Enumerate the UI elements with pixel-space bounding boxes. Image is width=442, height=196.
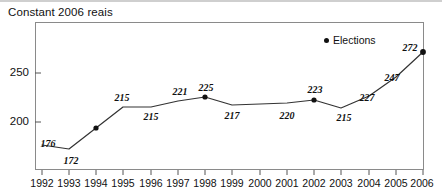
x-tick-label-1993: 1993	[57, 177, 80, 189]
y-tick-label-200: 200	[3, 115, 29, 127]
x-tick-label-1998: 1998	[193, 177, 216, 189]
data-label-1995: 215	[115, 92, 130, 103]
x-tick-label-2004: 2004	[357, 177, 380, 189]
data-label-1996: 215	[144, 111, 159, 122]
data-label-2002: 223	[308, 84, 323, 95]
x-tick-label-2003: 2003	[329, 177, 352, 189]
x-tick-label-2001: 2001	[275, 177, 298, 189]
chart-canvas	[0, 0, 442, 196]
data-label-2006: 272	[403, 42, 418, 53]
x-tick-label-2005: 2005	[384, 177, 407, 189]
x-tick-label-2006: 2006	[410, 177, 433, 189]
dot-marker-icon	[324, 38, 329, 43]
x-tick-label-1995: 1995	[111, 177, 134, 189]
data-label-2001: 220	[280, 110, 295, 121]
x-tick-label-1994: 1994	[84, 177, 107, 189]
chart-figure: Constant 2006 reais	[0, 0, 442, 196]
data-label-1992: 176	[41, 138, 56, 149]
x-tick-label-2002: 2002	[302, 177, 325, 189]
data-label-1998: 225	[199, 82, 214, 93]
x-tick-label-2000: 2000	[248, 177, 271, 189]
x-tick-label-1992: 1992	[30, 177, 53, 189]
legend-elections: Elections	[324, 34, 376, 46]
legend-label: Elections	[333, 34, 376, 46]
x-tick-label-1996: 1996	[139, 177, 162, 189]
data-label-2004: 227	[360, 92, 375, 103]
x-tick-label-1999: 1999	[220, 177, 243, 189]
x-axis-ticks	[42, 170, 423, 175]
data-label-2005: 247	[385, 72, 400, 83]
data-label-1999: 217	[225, 110, 240, 121]
y-tick-label-250: 250	[3, 66, 29, 78]
data-label-2003: 215	[337, 112, 352, 123]
data-label-1993: 172	[64, 155, 79, 166]
x-tick-label-1997: 1997	[166, 177, 189, 189]
data-label-1997: 221	[173, 86, 188, 97]
y-axis-ticks	[35, 73, 41, 122]
